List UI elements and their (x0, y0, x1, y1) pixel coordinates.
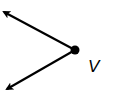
vertex-point (71, 46, 80, 55)
vertex-label: V (88, 58, 99, 75)
upper-ray (4, 12, 75, 50)
lower-ray (7, 50, 75, 89)
angle-diagram (0, 0, 113, 94)
